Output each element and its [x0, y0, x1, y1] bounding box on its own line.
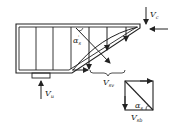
- support-bearing-plate: [32, 73, 50, 78]
- beam-outline: [16, 24, 140, 73]
- alpha-s-prime-label: αs': [73, 34, 81, 46]
- diagonal-bar-arrow: [76, 28, 110, 63]
- stirrups: [36, 27, 71, 70]
- vsv-brace: [90, 70, 125, 76]
- beam-force-diagram: αs' Vsv Vu Vc αs Vsb: [0, 0, 179, 127]
- vsv-label: Vsv: [103, 78, 114, 88]
- vsb-label: Vsb: [131, 113, 143, 123]
- angle-arc-alpha-s-prime: [79, 28, 83, 31]
- compression-curve: [73, 27, 138, 70]
- vu-label: Vu: [45, 89, 54, 99]
- alpha-s-label: αs: [135, 101, 143, 111]
- vc-label: Vc: [150, 10, 159, 20]
- angle-arc-alpha-s: [146, 106, 149, 110]
